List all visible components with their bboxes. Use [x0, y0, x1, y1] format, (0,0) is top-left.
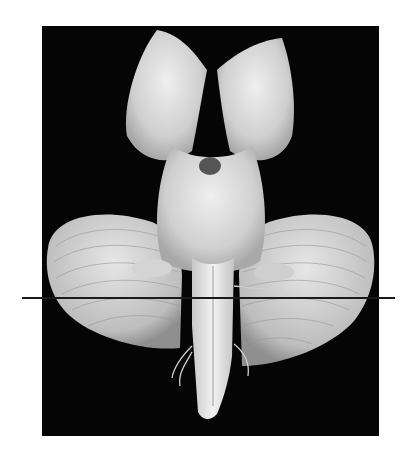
specimen-photograph — [42, 26, 379, 436]
section-plane-line — [22, 297, 395, 299]
specimen-illustration — [42, 26, 379, 436]
ventricle-spot — [199, 157, 221, 175]
thalamus-left — [126, 30, 207, 160]
thalamus-right — [217, 38, 294, 160]
